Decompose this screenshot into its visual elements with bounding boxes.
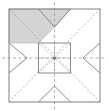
roof-plan-canvas: [0, 0, 109, 111]
roof-apex-point: [53, 56, 56, 59]
roof-plan-diagram: [0, 0, 109, 111]
